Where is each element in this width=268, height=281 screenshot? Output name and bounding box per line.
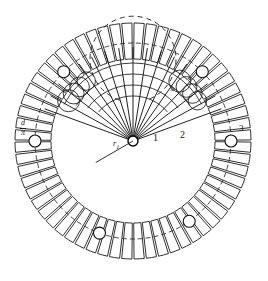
fraction-numerator: d [20,119,26,127]
label-radius-r1: r1 [113,140,119,150]
label-zone-3: 3 [239,124,244,133]
radial-rotor-diagram [0,0,268,281]
label-zone-1: 1 [153,133,158,143]
label-fraction-d-over-pi: d π [20,119,26,137]
label-zone-2: 2 [180,130,185,140]
label-radius-r1-subscript: 1 [116,144,119,150]
fraction-denominator: π [20,129,26,137]
